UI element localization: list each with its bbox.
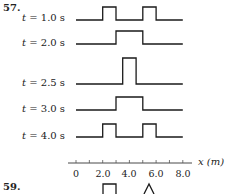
- waveform-1: [76, 7, 183, 20]
- waveform-2: [76, 31, 183, 44]
- waveform-4: [76, 97, 183, 110]
- x-tick-label: 2.0: [95, 168, 110, 179]
- x-tick-label: 6.0: [148, 168, 163, 179]
- waveform-5: [76, 124, 183, 137]
- waveform-3: [76, 58, 183, 84]
- problem-number-59: 59.: [3, 181, 20, 192]
- x-tick-label: 4.0: [121, 168, 136, 179]
- x-tick-label: 8.0: [175, 168, 190, 179]
- triangle-pulse-partial: [144, 184, 154, 194]
- x-tick-label: 0: [73, 168, 79, 179]
- square-pulse-partial: [103, 184, 116, 194]
- pulse-plot: [0, 0, 225, 194]
- x-axis-label: x (m): [198, 156, 224, 167]
